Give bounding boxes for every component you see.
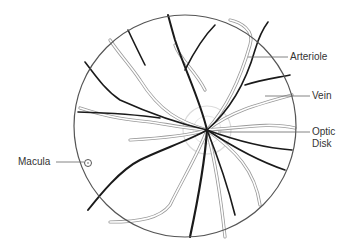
retina-diagram	[0, 0, 350, 250]
label-arteriole: Arteriole	[290, 51, 327, 62]
label-vein: Vein	[312, 90, 331, 101]
label-macula: Macula	[18, 156, 50, 167]
label-optic-disk-line2: Disk	[312, 138, 331, 149]
label-optic-disk-line1: Optic	[312, 126, 335, 137]
